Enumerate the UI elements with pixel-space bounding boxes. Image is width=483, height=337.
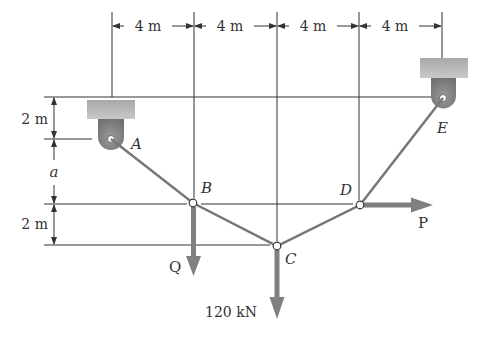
label-b: B bbox=[200, 179, 212, 197]
label-a: A bbox=[129, 135, 142, 153]
dim-label-bottom-2m: 2 m bbox=[21, 216, 48, 232]
label-c: C bbox=[285, 250, 297, 268]
dim-label-2: 4 m bbox=[217, 18, 244, 34]
dim-label-4: 4 m bbox=[382, 18, 409, 34]
dim-label-3: 4 m bbox=[300, 18, 327, 34]
cable-diagram: 4 m 4 m 4 m 4 m 2 m a 2 m A bbox=[0, 0, 483, 337]
label-e: E bbox=[436, 119, 448, 137]
support-e bbox=[420, 58, 468, 109]
dim-label-top-2m: 2 m bbox=[21, 111, 48, 127]
force-q-arrow bbox=[186, 207, 201, 276]
label-120kn: 120 kN bbox=[205, 304, 257, 320]
label-q: Q bbox=[169, 258, 181, 276]
force-p-arrow bbox=[364, 198, 433, 213]
joint-c-icon bbox=[273, 242, 281, 250]
joint-d-icon bbox=[356, 201, 364, 209]
force-120kn-arrow bbox=[270, 250, 285, 319]
joint-b-icon bbox=[189, 199, 197, 207]
dim-label-a: a bbox=[50, 163, 59, 181]
label-d: D bbox=[339, 181, 352, 199]
label-p: P bbox=[418, 214, 428, 232]
dim-label-1: 4 m bbox=[135, 18, 162, 34]
support-a bbox=[87, 100, 135, 150]
